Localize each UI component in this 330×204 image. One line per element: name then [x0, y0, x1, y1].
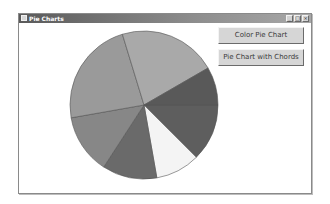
- title-bar[interactable]: Pie Charts _ □ ×: [19, 14, 311, 23]
- window-title: Pie Charts: [29, 14, 64, 23]
- close-button[interactable]: ×: [302, 15, 309, 22]
- pie-chart-with-chords-button[interactable]: Pie Chart with Chords: [218, 49, 304, 66]
- pie-chart: [69, 30, 219, 180]
- color-pie-chart-button[interactable]: Color Pie Chart: [218, 27, 304, 44]
- app-window: Pie Charts _ □ × Color Pie Chart Pie Cha…: [18, 13, 312, 194]
- maximize-button[interactable]: □: [294, 15, 301, 22]
- app-icon: [21, 15, 27, 21]
- minimize-button[interactable]: _: [286, 15, 293, 22]
- window-controls: _ □ ×: [286, 15, 309, 22]
